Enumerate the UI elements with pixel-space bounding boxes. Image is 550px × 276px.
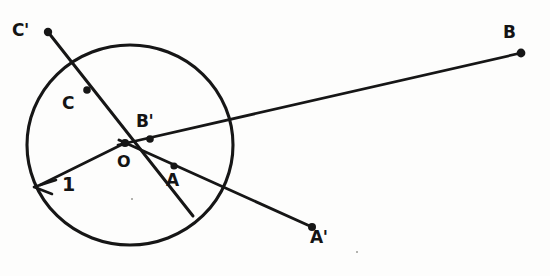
point-dot-B [517,49,526,58]
label-B: B [503,24,516,41]
radius-arrow-shaft [40,143,125,185]
label-C-prime: C' [12,22,29,39]
label-A-prime: A' [310,229,327,246]
label-A: A [166,172,179,189]
line-O-A-Aprime [119,140,312,227]
point-dot-Cprime [44,28,52,36]
line-O-Bprime-B [118,53,521,145]
paper-speck [356,251,358,253]
label-C: C [62,95,74,112]
point-dot-Bprime [146,135,154,143]
paper-speck [131,198,133,200]
label-B-prime: B' [136,113,153,130]
label-O: O [117,154,131,170]
point-dot-O [121,139,129,147]
label-radius-one: 1 [62,175,75,194]
diagram-canvas: O A A' B B' C C' 1 [0,0,550,276]
inversion-figure [0,0,550,276]
point-dot-C [83,86,91,94]
point-dot-A [170,162,177,169]
